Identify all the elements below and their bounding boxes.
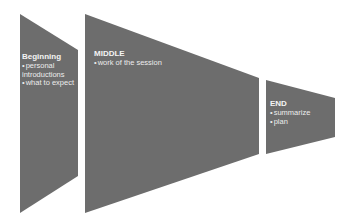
beginning-stage-shape	[20, 14, 78, 213]
beginning-item: what to expect	[22, 79, 80, 88]
end-item: plan	[270, 118, 332, 127]
middle-stage-label: MIDDLE work of the session	[94, 49, 214, 68]
middle-item: work of the session	[94, 59, 214, 68]
middle-stage-shape	[85, 14, 259, 213]
end-stage-label: END summarize plan	[270, 99, 332, 126]
beginning-stage-label: Beginning personal introductions what to…	[22, 52, 80, 88]
beginning-item: personal introductions	[22, 62, 80, 79]
